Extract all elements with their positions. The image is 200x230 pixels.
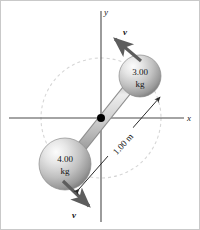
velocity-label-top: v — [123, 27, 128, 37]
sphere-3kg-unit: kg — [136, 79, 146, 89]
sphere-4kg-unit: kg — [61, 166, 71, 176]
sphere-4kg-value: 4.00 — [57, 154, 73, 164]
diagram-canvas: y x 4.00 kg 3.00 kg v v — [1, 1, 200, 230]
velocity-label-bottom: v — [72, 210, 77, 220]
x-axis-label: x — [186, 113, 191, 123]
rotating-dumbbell-figure: y x 4.00 kg 3.00 kg v v — [0, 0, 200, 230]
center-pivot-dot — [97, 114, 105, 122]
y-axis-label: y — [103, 7, 108, 17]
velocity-arrow-top — [115, 39, 141, 61]
sphere-3kg-value: 3.00 — [132, 67, 148, 77]
